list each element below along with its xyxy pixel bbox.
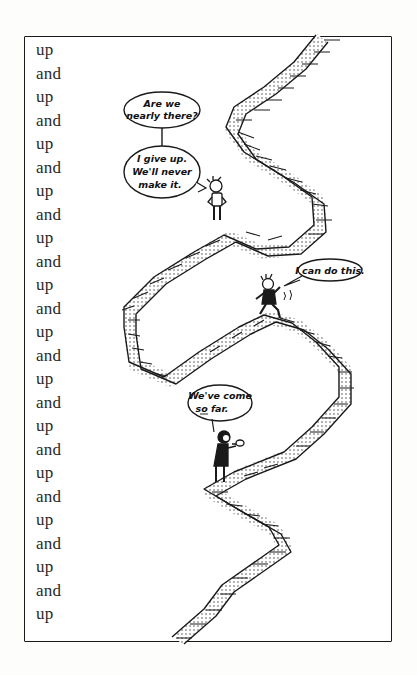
bubble-text: make it. [138,179,181,190]
speech-bubble-i-can-do-this: I can do this. [284,259,365,286]
speech-bubble-i-give-up: I give up. We'll never make it. [124,146,206,198]
bubble-text: so far. [196,403,229,414]
bubble-text: We'll never [132,166,193,177]
running-figure-icon [256,274,292,318]
bubble-text: nearly there? [126,110,198,121]
bubble-text: We've come [188,390,252,401]
speech-bubble-weve-come-so-far: We've come so far. [188,385,252,432]
bubble-text: I can do this. [295,265,364,276]
standing-figure-icon [207,176,226,220]
speech-bubble-are-we-nearly-there: Are we nearly there? [124,92,200,148]
staircase-illustration: Are we nearly there? I give up. We'll ne… [0,0,417,675]
bubble-text: I give up. [137,153,187,164]
bubble-text: Are we [142,98,181,109]
